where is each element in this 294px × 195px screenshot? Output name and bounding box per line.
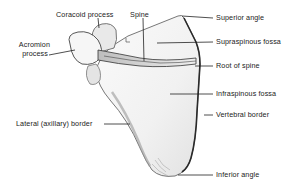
- scapula-diagram: Coracoid process Spine Acromion process …: [0, 0, 294, 195]
- label-superior-angle: Superior angle: [216, 14, 264, 22]
- label-spine: Spine: [130, 11, 149, 19]
- label-coracoid-process: Coracoid process: [56, 11, 114, 19]
- label-acromion-process-line1: Acromion: [12, 41, 50, 49]
- label-lateral-border: Lateral (axillary) border: [16, 120, 92, 128]
- label-root-of-spine: Root of spine: [216, 62, 260, 70]
- label-supraspinous-fossa: Supraspinous fossa: [216, 38, 281, 46]
- label-acromion-process-line2: process: [12, 50, 48, 58]
- label-vertebral-border: Vertebral border: [216, 111, 269, 119]
- label-inferior-angle: Inferior angle: [216, 171, 259, 179]
- label-infraspinous-fossa: Infraspinous fossa: [216, 90, 276, 98]
